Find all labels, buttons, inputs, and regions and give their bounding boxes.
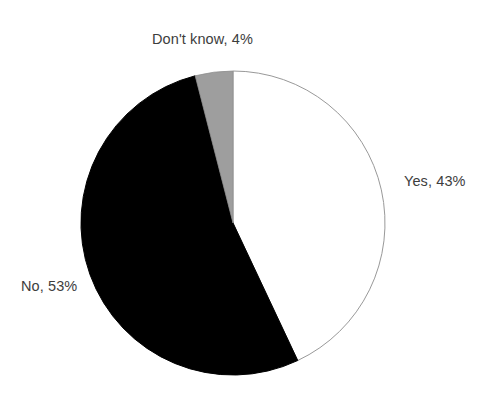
pie-chart-graphic bbox=[0, 0, 493, 407]
pie-label-no: No, 53% bbox=[21, 278, 77, 295]
pie-label-dont-know: Don't know, 4% bbox=[152, 31, 253, 48]
pie-chart: Don't know, 4% Yes, 43% No, 53% bbox=[0, 0, 493, 407]
pie-label-yes: Yes, 43% bbox=[404, 173, 466, 190]
